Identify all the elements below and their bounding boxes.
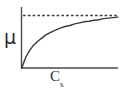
figure-container: μ Cs (0, 0, 121, 92)
saturation-curve-path (22, 17, 118, 68)
x-axis-label: Cs (50, 69, 64, 87)
y-axis-label: μ (4, 28, 16, 47)
x-axis-label-subscript: s (60, 79, 64, 89)
x-axis-label-base: C (50, 68, 60, 84)
